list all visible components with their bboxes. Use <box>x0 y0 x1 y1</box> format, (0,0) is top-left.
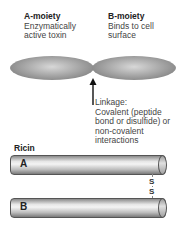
ricin-chain-b-cap <box>158 198 167 218</box>
linkage-label: Linkage: Covalent (peptide bond or disul… <box>95 98 170 146</box>
b-moiety-ellipse <box>92 56 176 80</box>
b-moiety-label: B-moiety Binds to cell surface <box>108 12 154 41</box>
ricin-chain-b-bar <box>10 198 166 218</box>
disulfide-s-bottom: S <box>149 187 154 196</box>
disulfide-s-top: S <box>149 177 154 186</box>
ricin-chain-a-label: A <box>20 158 27 169</box>
a-moiety-ellipse <box>10 56 94 80</box>
ricin-chain-a-cap <box>158 155 167 175</box>
a-moiety-label: A-moiety Enzymatically active toxin <box>24 12 76 41</box>
ricin-chain-b-label: B <box>20 201 27 212</box>
ricin-chain-a-bar <box>10 155 166 175</box>
b-moiety-desc-2: surface <box>108 31 154 41</box>
ricin-title: Ricin <box>14 143 35 153</box>
linkage-line-5: interactions <box>95 136 170 146</box>
a-moiety-desc-2: active toxin <box>24 31 76 41</box>
